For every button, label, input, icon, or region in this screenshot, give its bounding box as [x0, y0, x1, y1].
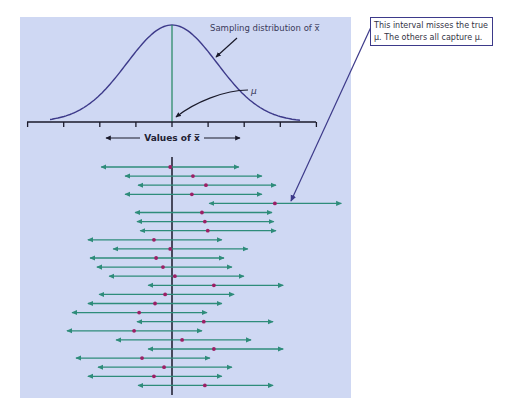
- sample-mean-dot: [154, 256, 158, 260]
- sample-mean-dot: [180, 338, 184, 342]
- sample-mean-dot: [212, 283, 216, 287]
- callout-text-line1: This interval misses the true: [374, 20, 489, 32]
- callout-text-line2: μ. The others all capture μ.: [374, 32, 489, 44]
- sample-mean-dot: [132, 329, 136, 333]
- distribution-label: Sampling distribution of x̅: [210, 23, 320, 33]
- sample-mean-dot: [212, 347, 216, 351]
- sample-mean-dot: [161, 265, 165, 269]
- panel-background: [20, 17, 351, 398]
- sample-mean-dot: [152, 374, 156, 378]
- sample-mean-dot: [173, 274, 177, 278]
- mu-label: μ: [250, 86, 257, 96]
- sample-mean-dot: [152, 238, 156, 242]
- sample-mean-dot: [273, 202, 277, 206]
- sample-mean-dot: [162, 365, 166, 369]
- confidence-interval-diagram: Sampling distribution of x̅ μ Values of …: [0, 0, 519, 410]
- sample-mean-dot: [191, 174, 195, 178]
- axis-label: Values of x̅: [144, 133, 200, 143]
- sample-mean-dot: [202, 320, 206, 324]
- sample-mean-dot: [153, 302, 157, 306]
- sample-mean-dot: [203, 220, 207, 224]
- sample-mean-dot: [163, 293, 167, 297]
- sample-mean-dot: [190, 192, 194, 196]
- sample-mean-dot: [140, 356, 144, 360]
- sample-mean-dot: [168, 165, 172, 169]
- sample-mean-dot: [168, 247, 172, 251]
- sample-mean-dot: [200, 211, 204, 215]
- sample-mean-dot: [203, 384, 207, 388]
- sample-mean-dot: [206, 229, 210, 233]
- sample-mean-dot: [137, 311, 141, 315]
- callout-box: This interval misses the true μ. The oth…: [370, 17, 493, 46]
- sample-mean-dot: [204, 183, 208, 187]
